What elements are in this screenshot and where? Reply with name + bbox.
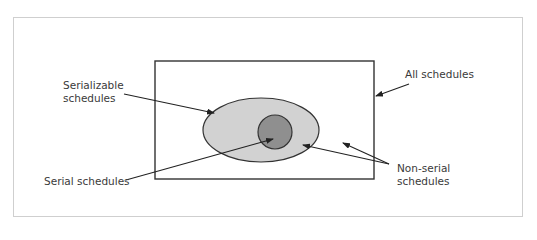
label-non-serial-schedules: Non-serial schedules (397, 162, 450, 188)
label-serial-schedules: Serial schedules (44, 175, 130, 188)
serial-circle (258, 115, 292, 149)
label-serializable-schedules: Serializable schedules (63, 79, 124, 105)
arrow-all (376, 84, 409, 96)
label-all-schedules: All schedules (405, 68, 474, 81)
schedule-sets-diagram (0, 0, 537, 240)
